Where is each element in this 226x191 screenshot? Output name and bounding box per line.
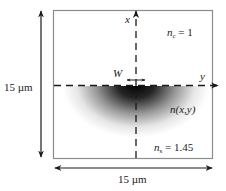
x-axis-label: x [125, 14, 130, 25]
index-profile-label: n(x,y) [170, 104, 195, 115]
cladding-index-label: nc = 1 [167, 27, 193, 40]
cladding-index-subscript: c [173, 32, 176, 40]
waveguide-diagram: 15 µm 15 µm x y W nc = 1 n(x,y) ns = 1.4… [0, 0, 226, 191]
height-dimension-label: 15 µm [4, 82, 33, 93]
cladding-index-value: = 1 [178, 26, 192, 38]
w-label: W [113, 68, 122, 79]
substrate-index-label: ns = 1.45 [154, 142, 193, 155]
width-dimension-label: 15 µm [118, 174, 147, 185]
substrate-index-subscript: s [160, 147, 163, 155]
substrate-index-value: = 1.45 [165, 141, 193, 153]
y-axis-label: y [200, 71, 205, 82]
